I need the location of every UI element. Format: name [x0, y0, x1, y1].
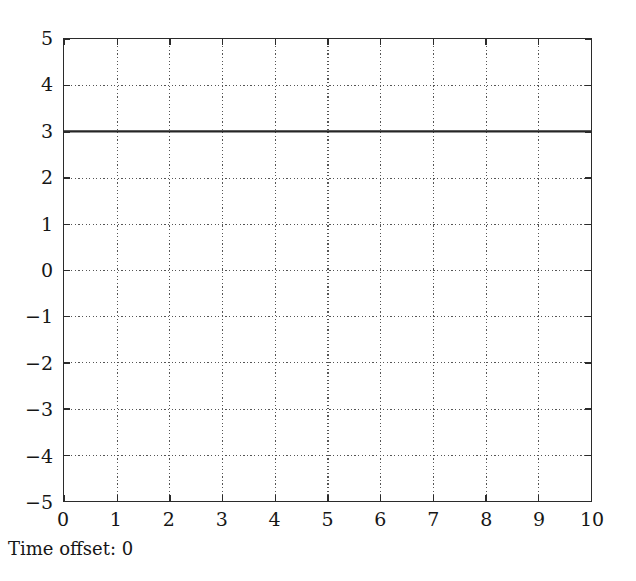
x-axis-tick-label: 6 — [374, 510, 386, 529]
y-axis-tick-label: −2 — [25, 353, 53, 372]
axis-tick-marks — [64, 39, 591, 501]
y-axis-tick-label: 3 — [41, 121, 53, 140]
y-axis-tick-label: −5 — [25, 493, 53, 512]
figure-canvas: 543210−1−2−3−4−5 012345678910 Time offse… — [0, 0, 636, 581]
x-axis-tick-label: 2 — [163, 510, 175, 529]
x-axis-tick-label: 0 — [57, 510, 69, 529]
x-axis-tick-label: 3 — [216, 510, 228, 529]
x-axis-tick-label: 8 — [480, 510, 492, 529]
y-axis-tick-label: −1 — [25, 307, 53, 326]
y-axis-tick-label: 1 — [41, 214, 53, 233]
y-axis-tick-label: −3 — [25, 400, 53, 419]
x-axis-tick-label: 9 — [533, 510, 545, 529]
y-axis-tick-label: 0 — [41, 261, 53, 280]
y-axis-tick-label: 4 — [41, 75, 53, 94]
plot-area — [63, 38, 592, 502]
x-axis-tick-label: 5 — [321, 510, 333, 529]
time-offset-caption: Time offset: 0 — [8, 538, 133, 559]
x-axis-tick-label: 4 — [269, 510, 281, 529]
x-axis-tick-label: 7 — [427, 510, 439, 529]
y-axis-tick-label: 5 — [41, 29, 53, 48]
y-axis-tick-label: −4 — [25, 446, 53, 465]
y-axis-tick-label: 2 — [41, 168, 53, 187]
x-axis-tick-label: 10 — [580, 510, 604, 529]
x-axis-tick-label: 1 — [110, 510, 122, 529]
